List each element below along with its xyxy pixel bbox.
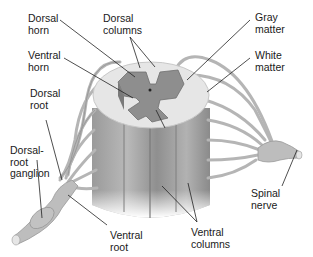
spinal-cord-illustration	[0, 0, 313, 257]
label-dorsal-horn: Dorsal horn	[28, 13, 58, 36]
label-dorsal-root-ganglion: Dorsal- root ganglion	[10, 145, 50, 180]
label-white-matter: White matter	[255, 50, 285, 73]
label-ventral-root: Ventral root	[110, 230, 143, 253]
label-dorsal-columns: Dorsal columns	[103, 13, 142, 36]
central-canal	[149, 89, 152, 92]
left-nerve-cut-end	[12, 235, 20, 245]
label-ventral-horn: Ventral horn	[28, 50, 61, 73]
right-nerve-cut-end	[296, 151, 302, 159]
label-spinal-nerve: Spinal nerve	[251, 188, 280, 211]
label-dorsal-root: Dorsal root	[30, 88, 60, 111]
label-gray-matter: Gray matter	[255, 12, 285, 35]
label-ventral-columns: Ventral columns	[191, 227, 230, 250]
